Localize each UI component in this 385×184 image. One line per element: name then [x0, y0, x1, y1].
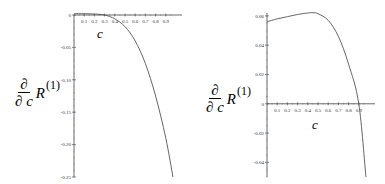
x-tick-label: 0.3	[294, 108, 301, 113]
y-tick-label: 0.06	[255, 14, 264, 19]
x-tick-label: 0.1	[274, 108, 281, 113]
x-tick-label: 0.8	[345, 108, 352, 113]
plot-area: 0.10.20.30.40.50.60.70.80.90-0.05-0.10-0…	[0, 0, 192, 184]
y-tick-label: -0.25	[61, 175, 72, 180]
x-tick-label: 0.7	[335, 108, 342, 113]
y-tick-label: -0.10	[61, 78, 72, 83]
x-tick-label: 0.9	[163, 19, 170, 24]
y-tick-label: -0.15	[61, 110, 72, 115]
left-plot: ∂∂ c R(1) 0.10.20.30.40.50.60.70.80.90-0…	[0, 0, 192, 184]
x-tick-label: 0.5	[315, 108, 322, 113]
x-tick-label: 0.6	[132, 19, 139, 24]
y-tick-label: 0.02	[255, 72, 264, 77]
x-tick-label: 0.5	[122, 19, 129, 24]
y-tick-label: 0.04	[255, 43, 264, 48]
x-tick-label: 0.2	[91, 19, 98, 24]
x-tick-label: 0.8	[152, 19, 159, 24]
x-tick-label: 0.4	[305, 108, 312, 113]
x-tick-label: 0.1	[81, 19, 88, 24]
y-tick-label: -0.20	[61, 142, 72, 147]
y-tick-label: 0	[262, 102, 265, 107]
x-axis-label: c	[97, 26, 103, 41]
y-tick-label: -0.04	[254, 160, 265, 165]
y-tick-label: -0.05	[61, 45, 72, 50]
right-plot: ∂∂ c R(1) 0.10.20.30.40.50.60.70.80.90.0…	[192, 0, 385, 184]
y-tick-label: -0.02	[254, 131, 265, 136]
x-tick-label: 0.7	[142, 19, 149, 24]
data-curve	[74, 14, 173, 177]
x-axis-label: c	[312, 117, 318, 132]
x-tick-label: 0.2	[284, 108, 291, 113]
data-curve	[267, 13, 366, 177]
x-tick-label: 0.6	[325, 108, 332, 113]
x-tick-label: 0.4	[112, 19, 119, 24]
x-tick-label: 0.3	[101, 19, 108, 24]
y-tick-label: 0	[69, 13, 72, 18]
plot-area: 0.10.20.30.40.50.60.70.80.90.060.040.020…	[192, 0, 385, 184]
